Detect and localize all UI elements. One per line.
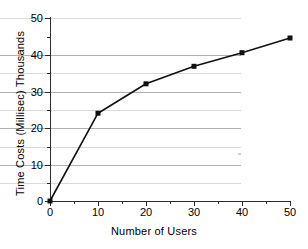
data-point-50[interactable] <box>288 36 293 41</box>
series-layer <box>0 0 308 249</box>
scan-speck <box>238 153 241 155</box>
series-line <box>50 38 290 201</box>
line-chart: 50 40 30 20 10 0 0 10 20 30 40 50 <box>0 0 308 249</box>
data-point-0[interactable] <box>48 199 53 204</box>
data-point-40[interactable] <box>240 50 245 55</box>
x-axis-title: Number of Users <box>0 225 308 237</box>
data-point-30[interactable] <box>192 64 197 69</box>
data-point-20[interactable] <box>144 81 149 86</box>
y-axis-title: Time Costs (Millisec) Thousands <box>14 31 26 196</box>
data-point-10[interactable] <box>96 111 101 116</box>
